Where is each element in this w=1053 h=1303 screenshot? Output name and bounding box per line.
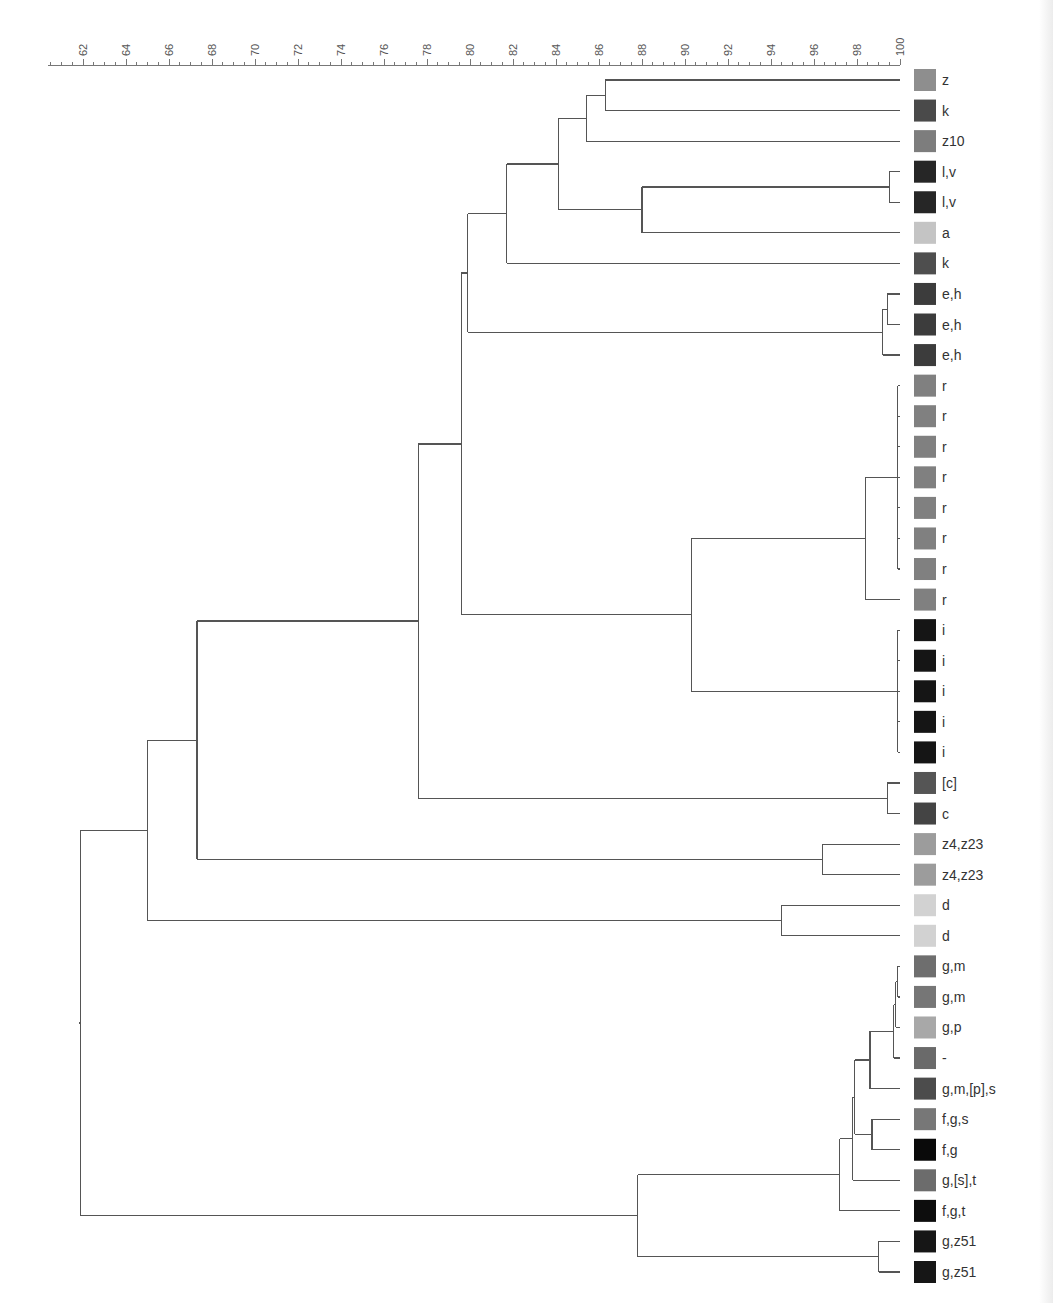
leaf-item: - [914, 1047, 947, 1069]
leaf-label: r [942, 500, 947, 516]
leaf-label: g,p [942, 1019, 962, 1035]
leaf-label: i [942, 683, 945, 699]
color-swatch-icon [914, 741, 936, 763]
leaf-label: r [942, 530, 947, 546]
leaf-label: i [942, 714, 945, 730]
leaf-item: i [914, 650, 945, 672]
leaf-item: r [914, 527, 947, 549]
color-swatch-icon [914, 130, 936, 152]
color-swatch-icon [914, 1078, 936, 1100]
leaf-label: g,z51 [942, 1264, 976, 1280]
leaf-item: r [914, 466, 947, 488]
color-swatch-icon [914, 589, 936, 611]
color-swatch-icon [914, 252, 936, 274]
leaf-item: a [914, 222, 950, 244]
leaf-label: g,m [942, 989, 965, 1005]
leaf-label: [c] [942, 775, 957, 791]
color-swatch-icon [914, 466, 936, 488]
axis-tick-label: 96 [808, 44, 820, 56]
color-swatch-icon [914, 1200, 936, 1222]
leaf-item: f,g,s [914, 1108, 968, 1130]
leaf-label: c [942, 806, 949, 822]
axis-tick-label: 80 [464, 44, 476, 56]
axis-tick-label: 88 [636, 44, 648, 56]
axis-tick-label: 84 [550, 44, 562, 56]
leaf-item: e,h [914, 283, 961, 305]
leaf-item: z10 [914, 130, 965, 152]
leaf-item: g,m,[p],s [914, 1078, 996, 1100]
color-swatch-icon [914, 527, 936, 549]
leaf-label: f,g,t [942, 1203, 965, 1219]
leaf-item: r [914, 589, 947, 611]
leaf-label: z10 [942, 133, 965, 149]
color-swatch-icon [914, 619, 936, 641]
dendrogram-branches [79, 80, 900, 1272]
axis-tick-label: 94 [765, 44, 777, 56]
color-swatch-icon [914, 803, 936, 825]
leaf-item: g,z51 [914, 1230, 976, 1252]
axis-tick-label: 62 [77, 44, 89, 56]
leaf-label: k [942, 255, 950, 271]
color-swatch-icon [914, 161, 936, 183]
leaf-item: g,[s],t [914, 1169, 976, 1191]
leaf-item: i [914, 619, 945, 641]
color-swatch-icon [914, 69, 936, 91]
leaf-label: l,v [942, 164, 956, 180]
color-swatch-icon [914, 650, 936, 672]
color-swatch-icon [914, 1230, 936, 1252]
leaf-label: g,m,[p],s [942, 1081, 996, 1097]
axis-tick-label: 64 [120, 44, 132, 56]
leaf-label: f,g [942, 1142, 958, 1158]
leaf-label: e,h [942, 286, 961, 302]
color-swatch-icon [914, 1016, 936, 1038]
color-swatch-icon [914, 283, 936, 305]
dendrogram-chart: 6264666870727476788082848688909294969810… [0, 0, 1053, 1303]
leaf-item: d [914, 894, 950, 916]
axis-tick-label: 68 [206, 44, 218, 56]
leaf-label: r [942, 561, 947, 577]
axis-tick-label: 100 [894, 38, 906, 56]
leaf-item: e,h [914, 314, 961, 336]
axis-tick-label: 78 [421, 44, 433, 56]
leaf-item: r [914, 436, 947, 458]
leaf-item: k [914, 252, 950, 274]
axis-tick-label: 92 [722, 44, 734, 56]
leaf-item: l,v [914, 191, 956, 213]
leaf-label: i [942, 744, 945, 760]
leaf-label: i [942, 653, 945, 669]
color-swatch-icon [914, 436, 936, 458]
axis-tick-label: 76 [378, 44, 390, 56]
leaf-label: i [942, 622, 945, 638]
color-swatch-icon [914, 955, 936, 977]
color-swatch-icon [914, 772, 936, 794]
leaf-item: i [914, 711, 945, 733]
leaf-item: g,m [914, 955, 965, 977]
color-swatch-icon [914, 986, 936, 1008]
leaf-item: z4,z23 [914, 864, 983, 886]
leaf-item: [c] [914, 772, 957, 794]
leaf-item: r [914, 558, 947, 580]
leaf-item: g,p [914, 1016, 962, 1038]
similarity-axis: 6264666870727476788082848688909294969810… [48, 38, 906, 65]
leaf-label: r [942, 439, 947, 455]
axis-tick-label: 74 [335, 44, 347, 56]
axis-tick-label: 82 [507, 44, 519, 56]
color-swatch-icon [914, 1261, 936, 1283]
leaf-label: z4,z23 [942, 836, 983, 852]
color-swatch-icon [914, 191, 936, 213]
leaf-item: e,h [914, 344, 961, 366]
leaf-item: g,z51 [914, 1261, 976, 1283]
color-swatch-icon [914, 375, 936, 397]
leaf-label: g,m [942, 958, 965, 974]
leaf-label: e,h [942, 347, 961, 363]
color-swatch-icon [914, 497, 936, 519]
leaf-label: r [942, 378, 947, 394]
leaf-label: r [942, 592, 947, 608]
leaf-item: z4,z23 [914, 833, 983, 855]
leaf-label: r [942, 408, 947, 424]
leaf-label: r [942, 469, 947, 485]
axis-tick-label: 98 [851, 44, 863, 56]
color-swatch-icon [914, 314, 936, 336]
color-swatch-icon [914, 344, 936, 366]
axis-tick-label: 72 [292, 44, 304, 56]
